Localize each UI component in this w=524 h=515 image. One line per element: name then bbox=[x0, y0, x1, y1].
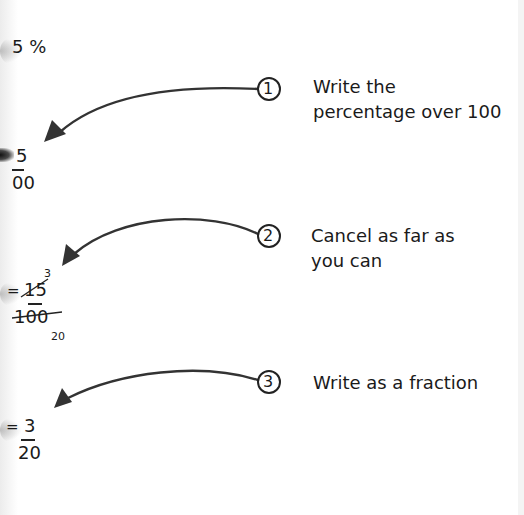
step-2-number: 2 bbox=[263, 226, 273, 245]
strike-denominator bbox=[12, 312, 62, 318]
step-2-line-1: Cancel as far as bbox=[311, 223, 455, 248]
arrowhead-icon bbox=[44, 120, 66, 142]
strike-numerator bbox=[21, 279, 48, 297]
step-1-instruction: Write the percentage over 100 bbox=[313, 74, 501, 124]
arrowhead-icon bbox=[62, 244, 80, 266]
step-1-line-1: Write the bbox=[313, 74, 501, 99]
arrow-step-1 bbox=[44, 88, 258, 142]
step-2-instruction: Cancel as far as you can bbox=[311, 223, 455, 273]
step-1-number: 1 bbox=[263, 79, 273, 98]
step-2-line-2: you can bbox=[311, 248, 455, 273]
step-3-line-1: Write as a fraction bbox=[313, 370, 478, 395]
arrow-step-2 bbox=[62, 219, 258, 266]
step-3-number: 3 bbox=[263, 372, 273, 391]
strike-through-lines bbox=[12, 279, 62, 318]
step-3-instruction: Write as a fraction bbox=[313, 370, 478, 395]
step-1-line-2: percentage over 100 bbox=[313, 99, 501, 124]
arrow-step-3 bbox=[54, 371, 258, 408]
